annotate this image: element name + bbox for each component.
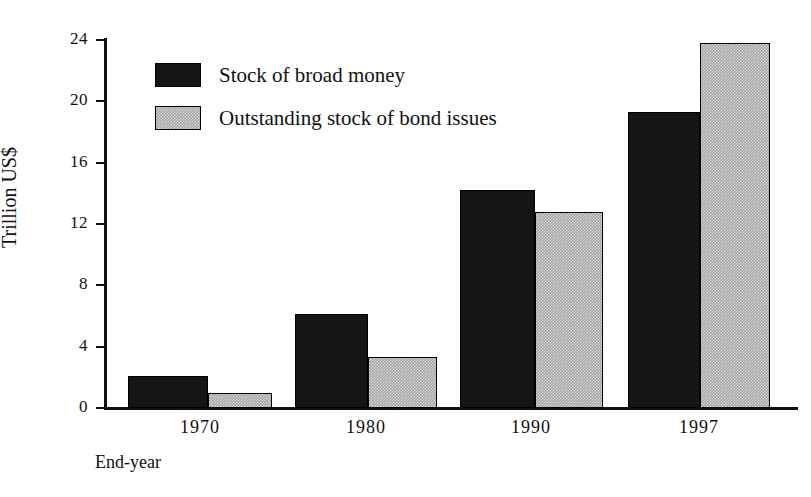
legend-label-series-1: Stock of broad money (219, 63, 405, 88)
y-axis-tick (96, 39, 107, 41)
legend-entry-series-1: Stock of broad money (155, 58, 497, 92)
y-axis-tick-label: 0 (0, 397, 88, 417)
bar-1990-series-1 (460, 190, 535, 408)
bar-1970-series-1 (128, 376, 208, 408)
y-axis-tick-label: 20 (0, 90, 88, 110)
x-axis-title: End-year (95, 452, 161, 473)
x-axis-category-label: 1980 (306, 417, 426, 438)
x-axis-category-label: 1997 (639, 417, 759, 438)
bar-1997-series-1 (628, 112, 700, 408)
legend-label-series-2: Outstanding stock of bond issues (219, 106, 497, 131)
y-axis-tick-label: 8 (0, 274, 88, 294)
bar-1980-series-2 (368, 357, 437, 408)
bar-chart-figure: 04812162024 Trillion US$ 197019801990199… (0, 0, 811, 497)
y-axis-tick (96, 346, 107, 348)
y-axis-title: Trillion US$ (0, 147, 21, 248)
legend-entry-series-2: Outstanding stock of bond issues (155, 101, 497, 135)
y-axis-tick (96, 162, 107, 164)
bar-1970-series-2 (208, 393, 272, 408)
x-axis-category-label: 1990 (471, 417, 591, 438)
y-axis-tick (96, 223, 107, 225)
y-axis-tick (96, 284, 107, 286)
halftone-gray-swatch-icon (155, 106, 201, 130)
x-axis-category-label: 1970 (140, 417, 260, 438)
chart-legend: Stock of broad money Outstanding stock o… (155, 58, 497, 144)
y-axis-tick (96, 100, 107, 102)
bar-1990-series-2 (535, 212, 603, 408)
bar-1997-series-2 (700, 43, 770, 408)
y-axis-tick (96, 407, 107, 409)
bar-1980-series-1 (295, 314, 368, 408)
y-axis-tick-label: 4 (0, 336, 88, 356)
y-axis-tick-label: 24 (0, 29, 88, 49)
solid-black-swatch-icon (155, 63, 201, 87)
